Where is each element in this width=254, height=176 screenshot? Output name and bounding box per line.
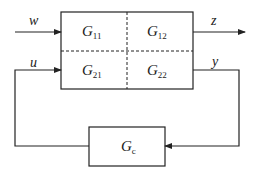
- y-feedback-path: [165, 70, 239, 146]
- block-label-g12: G12: [147, 24, 167, 41]
- block-label-g11: G11: [82, 24, 102, 41]
- signal-label-y: y: [212, 55, 218, 69]
- block-label-g21: G21: [82, 63, 102, 80]
- block-label-gc: Gc: [121, 139, 136, 156]
- u-feedback-path: [15, 70, 89, 146]
- block-label-g22: G22: [147, 63, 167, 80]
- signal-label-z: z: [211, 14, 216, 28]
- signal-label-u: u: [30, 56, 37, 70]
- signal-label-w: w: [29, 14, 38, 28]
